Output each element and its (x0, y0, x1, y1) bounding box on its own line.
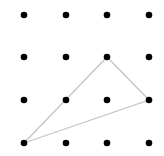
grid-dot (63, 12, 70, 19)
grid-dot (21, 97, 28, 104)
grid-dot (104, 97, 111, 104)
triangle (24, 57, 149, 143)
dot-grid-diagram (0, 0, 164, 156)
grid-dot (104, 12, 111, 19)
grid-dot (104, 140, 111, 147)
grid-dot (104, 54, 111, 61)
grid-dot (146, 12, 153, 19)
grid-dot (63, 54, 70, 61)
grid-dot (146, 54, 153, 61)
grid-dot (21, 12, 28, 19)
triangle-outline (24, 57, 149, 143)
grid-dot (21, 54, 28, 61)
grid-dot (63, 97, 70, 104)
grid-dot (63, 140, 70, 147)
grid-dot (21, 140, 28, 147)
grid-dot (146, 140, 153, 147)
grid-dot (146, 97, 153, 104)
